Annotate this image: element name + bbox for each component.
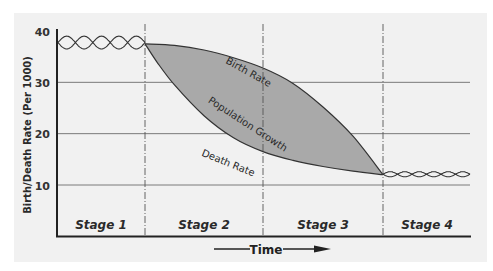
y-axis-label: Birth/Death Rate (Per 1000) — [22, 56, 33, 214]
stage-1-label: Stage 1 — [75, 218, 127, 232]
demographic-transition-chart: 40 30 20 10 Birth/Death Rate (Per 1000) … — [0, 0, 493, 271]
y-tick-20: 20 — [35, 128, 51, 141]
y-tick-40: 40 — [35, 26, 51, 39]
x-axis-label: Time — [250, 243, 283, 257]
stage-4-label: Stage 4 — [401, 218, 453, 232]
y-tick-10: 10 — [35, 180, 51, 193]
stage-3-label: Stage 3 — [297, 218, 349, 232]
y-tick-30: 30 — [35, 77, 51, 90]
stage-2-label: Stage 2 — [178, 218, 230, 232]
chart-canvas: 40 30 20 10 Birth/Death Rate (Per 1000) … — [0, 0, 493, 271]
